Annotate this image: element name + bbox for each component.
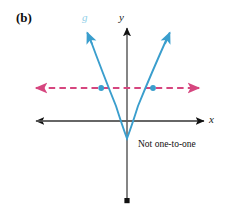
- figure-panel-b: (b) g y x Not one-to-one: [0, 0, 227, 208]
- curve-label-g: g: [82, 11, 88, 23]
- parabola-curve-g: [87, 33, 170, 139]
- y-axis-label: y: [119, 11, 124, 23]
- intersection-dot-left: [98, 85, 104, 91]
- intersection-dot-right: [150, 85, 156, 91]
- figure-caption: Not one-to-one: [138, 139, 196, 149]
- y-axis: [124, 28, 129, 203]
- panel-label: (b): [16, 10, 32, 26]
- graph-canvas: [0, 0, 227, 208]
- x-axis-label: x: [209, 113, 214, 125]
